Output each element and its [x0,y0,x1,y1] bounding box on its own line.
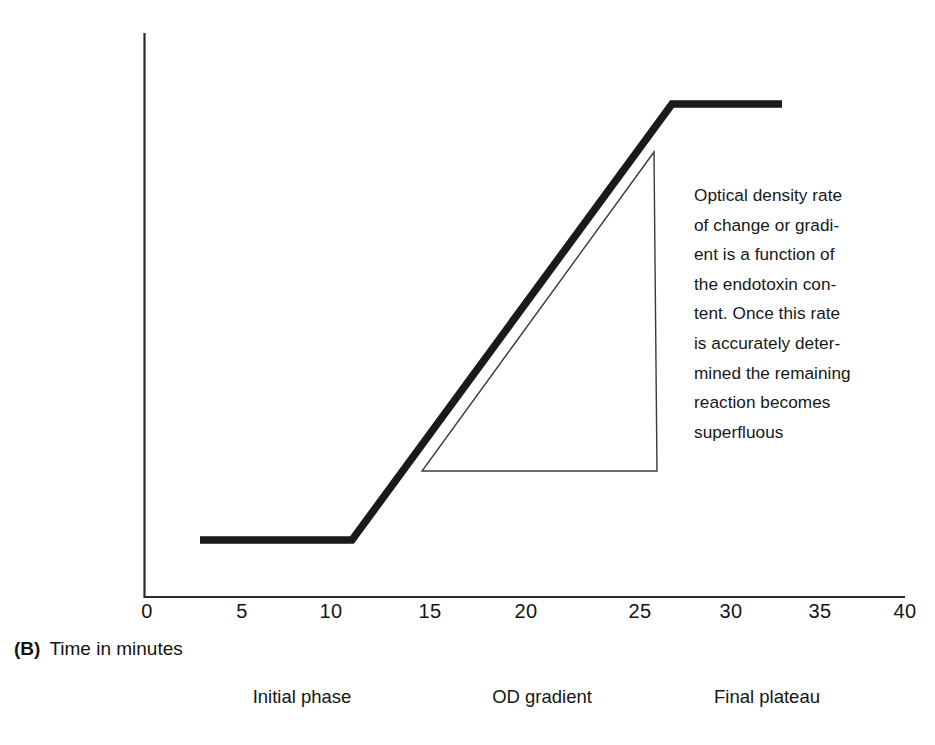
annotation-line-2: of change or gradi- [694,211,909,241]
phase-label-final-plateau: Final plateau [667,686,867,708]
annotation-line-4: the endotoxin con- [694,270,909,300]
x-tick-label-10: 10 [301,600,361,623]
panel-letter: (B) [14,638,40,659]
annotation-line-3: ent is a function of [694,240,909,270]
x-axis-title: Time in minutes [49,638,182,659]
x-tick-label-30: 30 [701,600,761,623]
x-tick-label-35: 35 [790,600,850,623]
annotation-line-6: is accurately deter- [694,329,909,359]
gradient-triangle [422,152,657,471]
x-tick-label-20: 20 [496,600,556,623]
annotation-line-1: Optical density rate [694,181,909,211]
annotation-line-8: reaction becomes [694,388,909,418]
annotation-line-7: mined the remaining [694,359,909,389]
axis-caption: (B)Time in minutes [14,638,183,660]
phase-label-od-gradient: OD gradient [442,686,642,708]
phase-label-initial-phase: Initial phase [202,686,402,708]
x-tick-label-15: 15 [400,600,460,623]
annotation-line-5: tent. Once this rate [694,299,909,329]
annotation-line-9: superfluous [694,418,909,448]
x-tick-label-0: 0 [117,600,177,623]
gradient-explanation-text: Optical density rate of change or gradi-… [694,181,909,447]
figure-panel-b: 0 5 10 15 20 25 30 35 40 Optical density… [0,0,935,745]
clipped-caption-strip [255,730,895,744]
x-tick-label-40: 40 [875,600,935,623]
x-tick-label-5: 5 [212,600,272,623]
x-tick-label-25: 25 [610,600,670,623]
